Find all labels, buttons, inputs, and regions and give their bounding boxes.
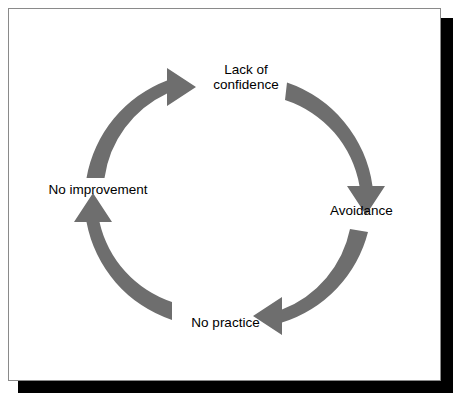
node-label-lack-of-confidence: Lack of confidence <box>196 62 296 92</box>
diagram-canvas: Lack of confidence Avoidance No practice… <box>0 0 459 399</box>
node-label-line-2: confidence <box>196 77 296 92</box>
arrow-no-practice-to-no-improvement <box>74 193 172 320</box>
arrow-no-improvement-to-lack-of-confidence <box>87 68 197 178</box>
node-label-no-improvement: No improvement <box>38 182 158 197</box>
node-label-line-1: Lack of <box>196 62 296 77</box>
arrow-lack-of-confidence-to-avoidance <box>285 83 385 216</box>
node-label-no-practice: No practice <box>178 315 273 330</box>
node-label-avoidance: Avoidance <box>330 203 425 218</box>
cycle-arrows-graphic <box>0 0 459 399</box>
